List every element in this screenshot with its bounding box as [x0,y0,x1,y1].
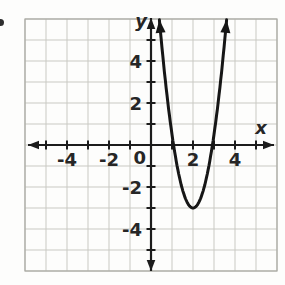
x-tick-label: 2 [187,149,200,170]
y-tick-label: 2 [129,93,142,114]
y-axis-down-arrow-icon [147,260,156,271]
coordinate-grid-graph: -4-22442-2-40xy [0,0,285,285]
y-tick-label: -4 [122,219,142,240]
y-axis-up-arrow-icon [147,18,156,29]
y-tick-label: 4 [129,51,142,72]
x-tick-label: -2 [99,149,119,170]
scanned-graph-figure: -4-22442-2-40xy [0,0,285,285]
y-tick-label: -2 [122,177,142,198]
parabola-graph-canvas: -4-22442-2-40xy [0,0,285,285]
x-tick-label: 4 [229,149,242,170]
y-axis-label: y [135,10,148,31]
origin-label: 0 [133,147,146,168]
x-axis-label: x [254,117,268,138]
x-tick-label: -4 [57,149,77,170]
x-axis-right-arrow-icon [263,141,274,150]
x-axis-left-arrow-icon [28,141,39,150]
